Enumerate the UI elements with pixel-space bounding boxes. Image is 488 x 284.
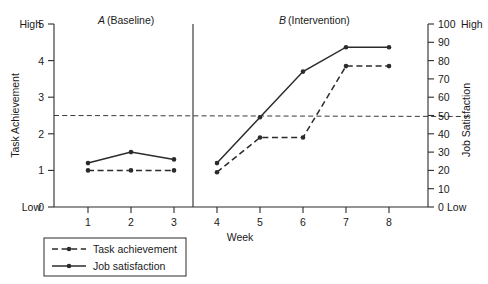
x-tick-8: 8 [386, 216, 392, 228]
phase-b-letter: B [279, 14, 286, 26]
data-point [86, 161, 91, 166]
left-axis-ticks [48, 24, 54, 207]
data-point [387, 45, 392, 50]
data-point [258, 135, 263, 140]
data-point [301, 69, 306, 74]
right-low-label: Low [447, 201, 467, 213]
right-tick-90: 90 [438, 36, 450, 48]
x-tick-1: 1 [85, 216, 91, 228]
data-point [172, 157, 177, 162]
x-tick-3: 3 [171, 216, 177, 228]
phase-b-name: (Intervention) [288, 14, 350, 26]
data-point [215, 161, 220, 166]
bottom-axis-ticks [88, 207, 389, 213]
series-job-satisfaction [86, 45, 392, 166]
task-achievement-line-intervention [217, 66, 389, 172]
data-point [129, 168, 134, 173]
legend-label-job-satisfaction: Job satisfaction [93, 260, 166, 272]
legend-marker [67, 264, 72, 269]
series-task-achievement [86, 64, 392, 175]
left-axis-title: Task Achievement [9, 73, 21, 158]
legend-marker [67, 247, 72, 252]
x-tick-5: 5 [257, 216, 263, 228]
right-tick-60: 60 [438, 91, 450, 103]
job-satisfaction-line-intervention [217, 47, 389, 163]
right-tick-30: 30 [438, 146, 450, 158]
right-tick-70: 70 [438, 73, 450, 85]
left-tick-1: 1 [38, 164, 44, 176]
right-axis-ticks [428, 24, 434, 207]
chart-canvas: 5 4 3 2 1 0 High Low Task Achievement 10… [0, 0, 488, 284]
right-tick-40: 40 [438, 128, 450, 140]
data-point [258, 115, 263, 120]
legend-label-task-achievement: Task achievement [93, 243, 177, 255]
right-tick-80: 80 [438, 55, 450, 67]
data-point [86, 168, 91, 173]
data-point [172, 168, 177, 173]
x-tick-7: 7 [343, 216, 349, 228]
chart-legend: Task achievement Job satisfaction [44, 238, 186, 276]
phase-a-name: (Baseline) [107, 14, 154, 26]
ab-design-line-chart: 5 4 3 2 1 0 High Low Task Achievement 10… [0, 0, 488, 284]
right-tick-10: 10 [438, 183, 450, 195]
data-point [344, 45, 349, 50]
phase-a-letter: A [97, 14, 105, 26]
x-tick-4: 4 [214, 216, 220, 228]
right-tick-20: 20 [438, 164, 450, 176]
left-high-label: High [19, 18, 41, 30]
data-point [215, 170, 220, 175]
x-axis-title: Week [227, 231, 254, 243]
right-tick-0: 0 [438, 201, 444, 213]
x-tick-6: 6 [300, 216, 306, 228]
left-low-label: Low [22, 201, 42, 213]
data-point [387, 64, 392, 69]
right-tick-100: 100 [438, 18, 456, 30]
data-point [301, 135, 306, 140]
left-tick-4: 4 [38, 55, 44, 67]
left-tick-2: 2 [38, 128, 44, 140]
data-point [344, 64, 349, 69]
right-axis-title: Job Satisfaction [460, 83, 472, 157]
x-tick-2: 2 [128, 216, 134, 228]
data-point [129, 150, 134, 155]
right-tick-50: 50 [438, 110, 450, 122]
left-tick-3: 3 [38, 91, 44, 103]
right-high-label: High [461, 18, 483, 30]
